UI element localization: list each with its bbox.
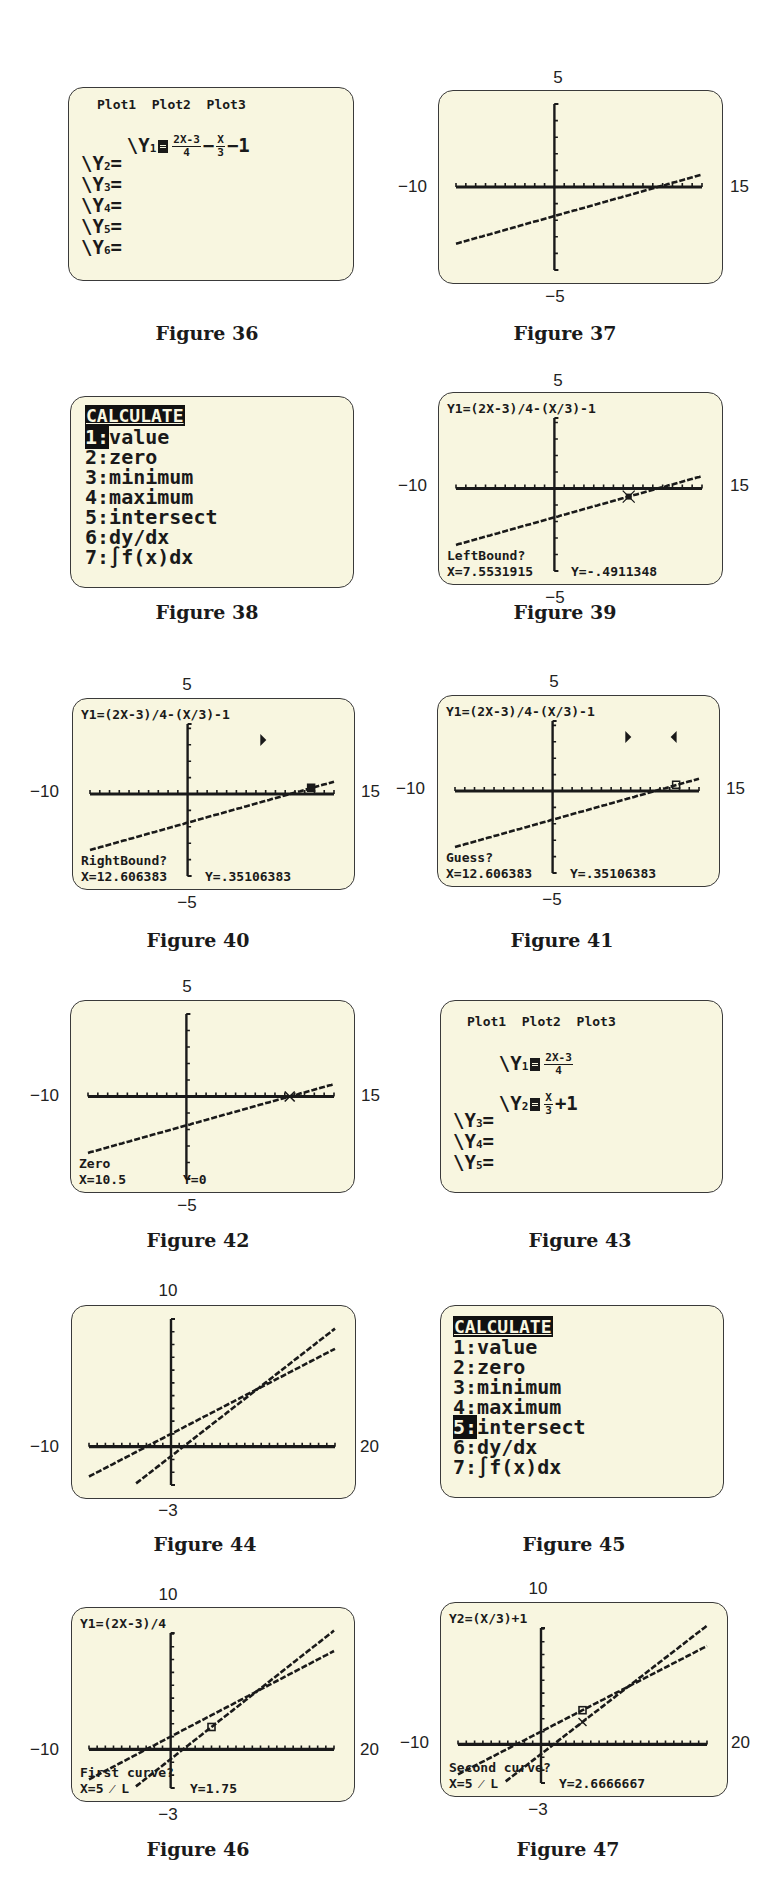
figure-caption: Figure 38: [156, 601, 259, 623]
y-readout: Y=0: [183, 1172, 207, 1187]
figure-caption: Figure 41: [511, 929, 614, 951]
xmax-label: 15: [726, 779, 745, 799]
menu-item-maximum[interactable]: 4:maximum: [85, 487, 193, 507]
ymin-label: −3: [158, 1501, 177, 1521]
menu-item-dydx[interactable]: 6:dy/dx: [453, 1437, 537, 1457]
y-readout: Y=.35106383: [205, 869, 291, 884]
y5-row: \Y5=: [453, 1153, 494, 1172]
graph-canvas: Y2=(X/3)+1Second curve?X=5 ⁄ LY=2.666666…: [441, 1603, 727, 1796]
menu-item-intersect[interactable]: 5:intersect: [85, 507, 217, 527]
y2-row: \Y2=: [81, 154, 122, 173]
y5-row: \Y5=: [81, 217, 122, 236]
prompt-text: Second curve?: [449, 1760, 551, 1775]
function-label: Y1=(2X-3)/4: [80, 1616, 166, 1631]
ymax-label: 5: [182, 977, 191, 997]
menu-item-minimum[interactable]: 3:minimum: [85, 467, 193, 487]
calculator-menu-fig45: CALCULATE 1:value 2:zero 3:minimum 4:max…: [440, 1305, 724, 1498]
menu-item-value[interactable]: 1:value: [453, 1337, 537, 1357]
function-curve: [89, 1651, 334, 1779]
figure-caption: Figure 39: [514, 601, 617, 623]
x-readout: X=5 ⁄ L: [80, 1781, 129, 1796]
calculator-graph-fig41: Y1=(2X-3)/4-(X/3)-1Guess?X=12.606383Y=.3…: [437, 695, 720, 887]
x-readout: X=12.606383: [446, 866, 532, 881]
x-readout: X=7.5531915: [447, 564, 533, 579]
xmax-label: 15: [730, 476, 749, 496]
menu-item-zero[interactable]: 2:zero: [85, 447, 157, 467]
calculator-graph-fig39: Y1=(2X-3)/4-(X/3)-1LeftBound?X=7.5531915…: [438, 392, 723, 585]
left-bound-marker-icon: [625, 731, 631, 743]
plots-header: Plot1 Plot2 Plot3: [97, 98, 246, 111]
figure-caption: Figure 42: [147, 1229, 250, 1251]
y3-row: \Y3=: [81, 175, 122, 194]
xmin-label: −10: [30, 1437, 59, 1457]
selected-equals-icon: [158, 140, 168, 153]
menu-item-intersect[interactable]: 5:intersect: [453, 1417, 585, 1437]
ymin-label: −3: [528, 1800, 547, 1820]
graph-canvas: Y1=(2X-3)/4-(X/3)-1Guess?X=12.606383Y=.3…: [438, 696, 719, 886]
prompt-text: RightBound?: [81, 853, 167, 868]
xmin-label: −10: [30, 1086, 59, 1106]
x-readout: X=5 ⁄ L: [449, 1776, 498, 1791]
menu-item-value[interactable]: 1:value: [85, 427, 169, 447]
ymax-label: 5: [553, 371, 562, 391]
graph-canvas: Y1=(2X-3)/4-(X/3)-1RightBound?X=12.60638…: [73, 699, 354, 889]
figure-caption: Figure 43: [529, 1229, 632, 1251]
ymax-label: 5: [549, 672, 558, 692]
ymax-label: 10: [159, 1281, 178, 1301]
menu-item-zero[interactable]: 2:zero: [453, 1357, 525, 1377]
figure-caption: Figure 45: [523, 1533, 626, 1555]
figure-caption: Figure 44: [154, 1533, 257, 1555]
menu-item-integral[interactable]: 7:∫f(x)dx: [85, 547, 193, 567]
function-label: Y2=(X/3)+1: [449, 1611, 527, 1626]
ymax-label: 10: [529, 1579, 548, 1599]
ymax-label: 10: [159, 1585, 178, 1605]
xmax-label: 20: [360, 1437, 379, 1457]
xmax-label: 15: [361, 782, 380, 802]
prompt-text: Zero: [79, 1156, 110, 1171]
ymin-label: −5: [177, 893, 196, 913]
calculator-graph-fig42: ZeroX=10.5Y=0: [70, 1000, 355, 1193]
function-label: Y1=(2X-3)/4-(X/3)-1: [447, 401, 596, 416]
graph-canvas: ZeroX=10.5Y=0: [71, 1001, 354, 1192]
calculator-graph-fig40: Y1=(2X-3)/4-(X/3)-1RightBound?X=12.60638…: [72, 698, 355, 890]
calculator-screen-fig43: Plot1 Plot2 Plot3 \Y12X-34 \Y2X3+1 \Y3= …: [440, 1000, 723, 1193]
y4-row: \Y4=: [453, 1132, 494, 1151]
y4-row: \Y4=: [81, 196, 122, 215]
selected-equals-icon: [530, 1098, 540, 1111]
xmax-label: 20: [731, 1733, 750, 1753]
function-label: Y1=(2X-3)/4-(X/3)-1: [81, 707, 230, 722]
function-curve: [136, 1329, 335, 1484]
trace-cursor-icon: [308, 784, 315, 791]
xmax-label: 15: [730, 177, 749, 197]
selected-equals-icon: [530, 1058, 540, 1071]
calculator-menu-fig38: CALCULATE 1:value 2:zero 3:minimum 4:max…: [70, 396, 354, 588]
function-curve: [90, 782, 334, 850]
menu-item-minimum[interactable]: 3:minimum: [453, 1377, 561, 1397]
menu-item-integral[interactable]: 7:∫f(x)dx: [453, 1457, 561, 1477]
function-curve: [455, 779, 699, 847]
ymax-label: 5: [182, 675, 191, 695]
function-label: Y1=(2X-3)/4-(X/3)-1: [446, 704, 595, 719]
function-curve: [136, 1631, 334, 1787]
left-bound-marker-icon: [260, 734, 266, 746]
function-curve: [88, 1084, 334, 1153]
menu-item-maximum[interactable]: 4:maximum: [453, 1397, 561, 1417]
ymin-label: −5: [545, 287, 564, 307]
xmin-label: −10: [398, 476, 427, 496]
menu-item-dydx[interactable]: 6:dy/dx: [85, 527, 169, 547]
prompt-text: Guess?: [446, 850, 493, 865]
function-curve: [506, 1626, 707, 1782]
right-bound-marker-icon: [671, 731, 677, 743]
plots-header: Plot1 Plot2 Plot3: [467, 1015, 616, 1028]
calculator-graph-fig47: Y2=(X/3)+1Second curve?X=5 ⁄ LY=2.666666…: [440, 1602, 728, 1797]
graph-canvas: Y1=(2X-3)/4-(X/3)-1LeftBound?X=7.5531915…: [439, 393, 722, 584]
y3-row: \Y3=: [453, 1111, 494, 1130]
figure-caption: Figure 46: [147, 1838, 250, 1860]
figure-caption: Figure 40: [147, 929, 250, 951]
y-readout: Y=-.4911348: [571, 564, 657, 579]
calculator-screen-fig36: Plot1 Plot2 Plot3 \Y12X-34−X3−1 \Y2= \Y3…: [68, 87, 354, 281]
xmin-label: −10: [30, 1740, 59, 1760]
figure-caption: Figure 36: [156, 322, 259, 344]
graph-canvas: Y1=(2X-3)/4First curve?X=5 ⁄ LY=1.75: [72, 1608, 354, 1801]
function-curve: [456, 476, 702, 545]
